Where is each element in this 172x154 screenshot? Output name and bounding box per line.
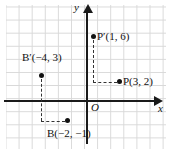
- point-p-prime-label: P′(1, 6): [97, 31, 129, 42]
- point-b-prime-label: B′(−4, 3): [22, 52, 62, 63]
- connector-p-prime-vertical: [93, 40, 94, 83]
- x-axis-label: x: [158, 103, 163, 114]
- coordinate-plane-figure: y x O P(3, 2) P′(1, 6) B(−2, −1) B′(−4, …: [0, 0, 172, 154]
- y-axis-label: y: [74, 2, 79, 13]
- x-axis-line: [4, 100, 156, 102]
- point-b-label: B(−2, −1): [47, 128, 91, 139]
- point-p-prime-marker: [91, 34, 96, 39]
- point-p-label: P(3, 2): [123, 76, 153, 87]
- y-axis-line: [86, 10, 88, 144]
- y-axis-arrow-icon: [83, 4, 93, 13]
- point-b-prime-marker: [39, 73, 44, 78]
- point-b-marker: [65, 118, 70, 123]
- connector-b-horizontal: [41, 121, 65, 122]
- origin-label: O: [91, 102, 99, 113]
- point-p-marker: [117, 79, 122, 84]
- connector-b-prime-vertical: [41, 79, 42, 121]
- connector-p-horizontal: [93, 82, 117, 83]
